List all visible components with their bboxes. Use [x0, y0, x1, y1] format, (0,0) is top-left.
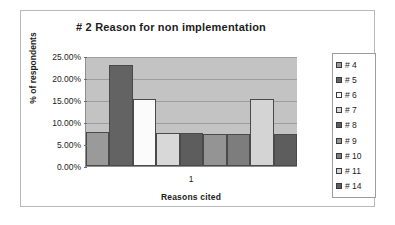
legend-swatch-icon — [336, 62, 342, 68]
legend-item-4[interactable]: # 4 — [336, 57, 373, 72]
plot-area — [85, 57, 297, 167]
legend-swatch-icon — [336, 92, 342, 98]
legend-swatch-icon — [336, 77, 342, 83]
y-axis-tick-label: 5.00% — [57, 140, 81, 150]
legend-label: # 14 — [345, 181, 362, 191]
y-axis-tick-label: 0.00% — [57, 162, 81, 172]
y-axis-tick-labels: 25.00%20.00%15.00%10.00%5.00%0.00% — [21, 57, 81, 167]
legend-item-8[interactable]: # 8 — [336, 118, 373, 133]
legend-label: # 4 — [345, 60, 357, 70]
y-axis-tick-label: 25.00% — [52, 52, 81, 62]
bar-slot — [227, 57, 250, 166]
legend-item-10[interactable]: # 10 — [336, 148, 373, 163]
bar-slot — [250, 57, 273, 166]
legend-item-14[interactable]: # 14 — [336, 179, 373, 194]
bar-14[interactable] — [274, 134, 297, 166]
y-axis-tick-mark — [84, 145, 87, 146]
x-axis-tick-label: 1 — [85, 174, 297, 184]
legend-item-5[interactable]: # 5 — [336, 72, 373, 87]
legend-swatch-icon — [336, 138, 342, 144]
legend-label: # 9 — [345, 136, 357, 146]
bar-slot — [180, 57, 203, 166]
y-axis-tick-mark — [84, 79, 87, 80]
x-axis-title: Reasons cited — [85, 192, 297, 202]
legend-item-7[interactable]: # 7 — [336, 103, 373, 118]
legend-label: # 5 — [345, 75, 357, 85]
bar-slot — [133, 57, 156, 166]
legend-item-11[interactable]: # 11 — [336, 163, 373, 178]
plot-wrap — [85, 57, 297, 167]
legend-swatch-icon — [336, 107, 342, 113]
legend-label: # 7 — [345, 105, 357, 115]
y-axis-tick-mark — [84, 57, 87, 58]
y-axis-tick-label: 20.00% — [52, 74, 81, 84]
bar-slot — [156, 57, 179, 166]
legend-swatch-icon — [336, 122, 342, 128]
bar-slot — [274, 57, 297, 166]
bar-slot — [86, 57, 109, 166]
y-axis-tick-mark — [84, 123, 87, 124]
chart-title: # 2 Reason for non implementation — [21, 21, 321, 33]
legend-item-6[interactable]: # 6 — [336, 87, 373, 102]
legend-swatch-icon — [336, 153, 342, 159]
legend-item-9[interactable]: # 9 — [336, 133, 373, 148]
y-axis-tick-label: 10.00% — [52, 118, 81, 128]
legend-swatch-icon — [336, 168, 342, 174]
legend-label: # 10 — [345, 151, 362, 161]
legend-swatch-icon — [336, 183, 342, 189]
bar-7[interactable] — [156, 133, 179, 166]
bar-6[interactable] — [133, 99, 156, 166]
y-axis-tick-mark — [84, 101, 87, 102]
bar-4[interactable] — [86, 132, 109, 166]
legend-label: # 11 — [345, 166, 361, 176]
bar-11[interactable] — [250, 99, 273, 166]
bar-slot — [203, 57, 226, 166]
legend: # 4# 5# 6# 7# 8# 9# 10# 11# 14 — [332, 53, 376, 198]
bar-5[interactable] — [109, 65, 132, 166]
bar-group — [86, 57, 297, 166]
y-axis-tick-mark — [84, 167, 87, 168]
bar-slot — [109, 57, 132, 166]
bar-8[interactable] — [180, 133, 203, 166]
chart-frame: # 2 Reason for non implementation % of r… — [20, 10, 375, 207]
bar-9[interactable] — [203, 134, 226, 166]
legend-label: # 6 — [345, 90, 357, 100]
legend-label: # 8 — [345, 120, 357, 130]
bar-10[interactable] — [227, 134, 250, 166]
y-axis-tick-label: 15.00% — [52, 96, 81, 106]
